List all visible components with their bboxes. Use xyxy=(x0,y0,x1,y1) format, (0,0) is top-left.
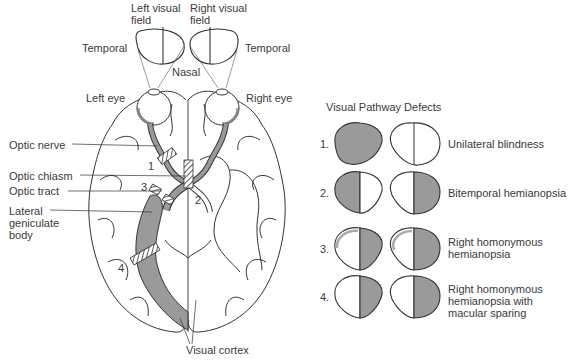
lesion-number-3: 3 xyxy=(141,181,147,193)
defect-3-label: Right homonymous hemianopsia xyxy=(448,236,543,260)
defect-3-left-field xyxy=(335,228,382,270)
right-visual-field-label: Right visual field xyxy=(190,2,247,26)
nasal-label: Nasal xyxy=(172,66,200,78)
visual-cortex-label: Visual cortex xyxy=(186,344,249,356)
lesion-marker-2 xyxy=(184,160,193,188)
optic-chiasm-label: Optic chiasm xyxy=(9,170,73,182)
lesion-number-2: 2 xyxy=(195,194,201,206)
defect-1-right-field xyxy=(390,123,440,165)
defect-1-number: 1. xyxy=(320,138,329,150)
right-eye-globe xyxy=(205,89,239,125)
optic-nerve-label: Optic nerve xyxy=(9,139,65,151)
right-visual-field xyxy=(190,27,238,64)
left-visual-field xyxy=(136,27,184,64)
defect-2-right-field xyxy=(390,172,440,214)
lesion-number-4: 4 xyxy=(118,262,124,274)
temporal-right-label: Temporal xyxy=(245,42,290,54)
defects-panel-title: Visual Pathway Defects xyxy=(326,101,441,113)
right-eye-label: Right eye xyxy=(246,92,292,104)
defect-4-number: 4. xyxy=(320,291,329,303)
temporal-left-label: Temporal xyxy=(82,42,127,54)
left-eye-label: Left eye xyxy=(86,92,125,104)
defect-2-number: 2. xyxy=(320,187,329,199)
defect-1-left-field xyxy=(335,123,382,165)
left-eye-globe xyxy=(137,89,171,125)
left-visual-field-label: Left visual field xyxy=(131,2,181,26)
optic-radiation xyxy=(136,195,188,330)
defect-2-left-field xyxy=(335,172,382,213)
defect-4-label: Right homonymous hemianopsia with macula… xyxy=(448,283,543,319)
defect-1-label: Unilateral blindness xyxy=(448,138,544,150)
defect-2-label: Bitemporal hemianopsia xyxy=(448,187,566,199)
defect-3-number: 3. xyxy=(320,243,329,255)
defect-4-right-field xyxy=(390,276,440,318)
defect-4-left-field xyxy=(335,276,382,318)
defect-3-right-field xyxy=(390,228,440,270)
lesion-number-1: 1 xyxy=(148,160,154,172)
lateral-geniculate-body-label: Lateral geniculate body xyxy=(9,205,59,241)
optic-tract-label: Optic tract xyxy=(9,185,59,197)
